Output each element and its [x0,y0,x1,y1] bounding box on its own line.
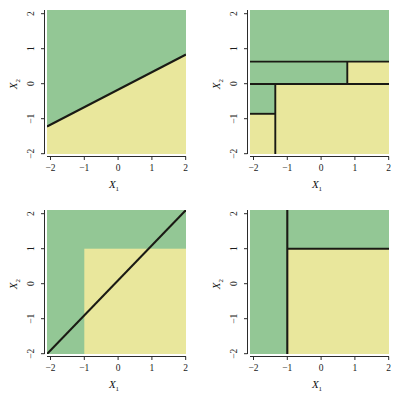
x-axis-title: X1 [108,178,120,193]
y-axis-title: X2 [7,78,22,90]
tree-region-green-midleft [250,62,347,84]
y-axis-title: X2 [7,278,22,290]
y-tick-label: 1 [229,46,239,51]
panel-top-left: −2 −1 0 1 2 2 1 0 −1 −2 X1 X2 [0,0,202,200]
panel-bottom-right: −2 −1 0 1 2 2 1 0 −1 −2 X1 X2 [203,200,405,400]
x-tick-label: −1 [282,163,292,173]
x-axis-title: X1 [311,378,323,393]
x-tick-label: 1 [150,363,155,373]
y-tick-label: −1 [229,113,239,123]
x-tick-label: −1 [79,163,89,173]
x-tick-label: 2 [183,163,188,173]
region-yellow-rect [84,249,186,354]
tree-region-green-lowleft [250,84,275,114]
x-tick-label: −2 [45,363,55,373]
plot-bottom-left: −2 −1 0 1 2 2 1 0 −1 −2 X1 X2 [0,200,202,400]
y-tick-label: −2 [229,148,239,158]
x-axis-ticks [51,157,186,161]
plot-top-right: −2 −1 0 1 2 2 1 0 −1 −2 X1 X2 [203,0,405,200]
x-tick-label: 2 [183,363,188,373]
x-axis-ticks [254,157,389,161]
tree-region-yellow-midright [347,62,389,84]
x-tick-label: −2 [45,163,55,173]
x-axis-ticks [254,357,389,361]
y-tick-label: 1 [26,46,36,51]
y-tick-label: 0 [229,281,239,286]
x-axis-title: X1 [108,378,120,393]
x-tick-label: −2 [248,363,258,373]
y-axis-title: X2 [210,78,225,90]
y-tick-label: −2 [229,348,239,358]
plot-top-left: −2 −1 0 1 2 2 1 0 −1 −2 X1 X2 [0,0,202,200]
y-tick-label: 2 [229,211,239,216]
y-tick-label: 2 [26,11,36,16]
y-tick-label: −1 [229,313,239,323]
y-tick-label: −1 [26,313,36,323]
region-yellow-rect [287,249,389,354]
y-tick-label: −2 [26,348,36,358]
x-tick-label: −1 [282,363,292,373]
x-tick-label: 1 [353,363,358,373]
x-axis-title: X1 [311,178,323,193]
x-tick-label: 1 [353,163,358,173]
y-axis-ticks [244,14,248,154]
panel-top-right: −2 −1 0 1 2 2 1 0 −1 −2 X1 X2 [203,0,405,200]
y-tick-label: 1 [229,246,239,251]
y-tick-label: 2 [229,11,239,16]
tree-region-yellow-bottomleft [250,114,275,154]
y-tick-label: 1 [26,246,36,251]
y-axis-ticks [41,214,45,354]
x-tick-label: 2 [386,163,391,173]
y-tick-label: −2 [26,148,36,158]
x-tick-label: 0 [319,363,324,373]
y-tick-label: −1 [26,113,36,123]
tree-region-green-top [250,10,389,62]
figure-container: −2 −1 0 1 2 2 1 0 −1 −2 X1 X2 [0,0,405,400]
plot-bottom-right: −2 −1 0 1 2 2 1 0 −1 −2 X1 X2 [203,200,405,400]
y-tick-label: 2 [26,211,36,216]
y-axis-ticks [244,214,248,354]
x-tick-label: −1 [79,363,89,373]
x-tick-label: 0 [116,163,121,173]
y-tick-label: 0 [26,281,36,286]
x-axis-ticks [51,357,186,361]
x-tick-label: 2 [386,363,391,373]
y-axis-title: X2 [210,278,225,290]
x-tick-label: 0 [116,363,121,373]
y-tick-label: 0 [26,81,36,86]
y-axis-ticks [41,14,45,154]
x-tick-label: −2 [248,163,258,173]
panel-bottom-left: −2 −1 0 1 2 2 1 0 −1 −2 X1 X2 [0,200,202,400]
x-tick-label: 1 [150,163,155,173]
x-tick-label: 0 [319,163,324,173]
y-tick-label: 0 [229,81,239,86]
tree-region-yellow-bottomright [275,84,389,154]
